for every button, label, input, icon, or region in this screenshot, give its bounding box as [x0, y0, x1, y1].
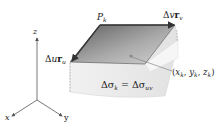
y-axis — [37, 100, 62, 116]
surface-diagram — [0, 0, 218, 128]
sample-point-label: (xk, yk, zk) — [172, 68, 214, 78]
vector-u-label: Δuru — [45, 55, 66, 65]
area-equation-label: Δσk = Δσuv — [101, 80, 153, 91]
vector-v-label: Δvrv — [163, 11, 183, 21]
y-axis-label: y — [64, 114, 69, 122]
corner-point-label: Pk — [97, 13, 107, 23]
z-axis-label: z — [33, 28, 37, 36]
coordinate-axes — [12, 38, 62, 116]
x-axis-label: x — [5, 114, 10, 122]
x-axis — [12, 100, 37, 116]
